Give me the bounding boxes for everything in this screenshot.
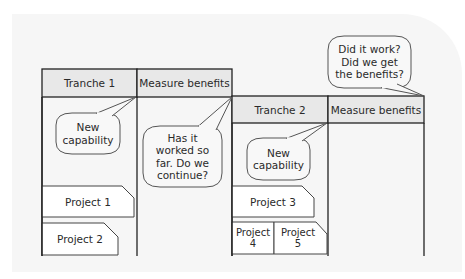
project-5-label: Project 5: [274, 222, 322, 254]
tranche2-header: Tranche 2: [232, 96, 328, 123]
measure-benefits2-header: Measure benefits: [328, 96, 424, 123]
bubble-question-2-text: Did it work? Did we get the benefits?: [328, 36, 411, 88]
project-1-label: Project 1: [42, 186, 134, 217]
measure-benefits1-header: Measure benefits: [137, 69, 232, 97]
bubble-question-1-text: Has it worked so far. Do we continue?: [143, 126, 222, 187]
bubble-capability-2-text: New capability: [247, 138, 310, 180]
tranche1-header: Tranche 1: [42, 69, 137, 97]
project-4-label: Project 4: [232, 222, 274, 254]
bubble-capability-1-text: New capability: [56, 113, 120, 154]
project-3-label: Project 3: [232, 186, 314, 217]
project-2-label: Project 2: [42, 223, 118, 255]
